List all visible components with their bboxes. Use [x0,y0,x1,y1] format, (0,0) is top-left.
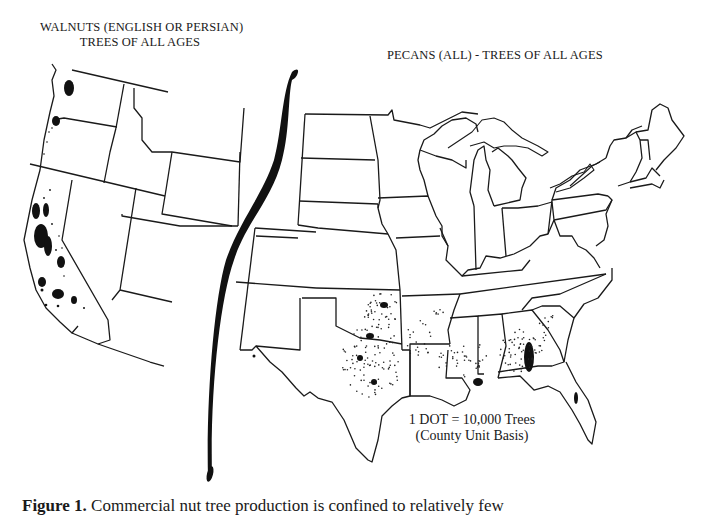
legend-basis: (County Unit Basis) [392,428,552,444]
curved-separator [208,70,298,478]
caption-label: Figure 1. [22,496,87,515]
walnut-title-line1: WALNUTS (ENGLISH OR PERSIAN) [40,20,240,35]
figure-caption: Figure 1. Commercial nut tree production… [22,496,504,516]
walnut-map-title: WALNUTS (ENGLISH OR PERSIAN) TREES OF AL… [40,20,240,50]
legend-dot-value: 1 DOT = 10,000 Trees [392,412,552,428]
west-states-outline [24,64,298,366]
pecan-dots [253,302,579,404]
caption-text: Commercial nut tree production is confin… [91,496,504,515]
walnut-title-line2: TREES OF ALL AGES [40,35,240,50]
map-legend: 1 DOT = 10,000 Trees (County Unit Basis) [392,412,552,444]
walnut-dots [32,80,85,309]
east-states-outline [236,104,684,462]
pecan-map-title: PECANS (ALL) - TREES OF ALL AGES [387,48,603,63]
